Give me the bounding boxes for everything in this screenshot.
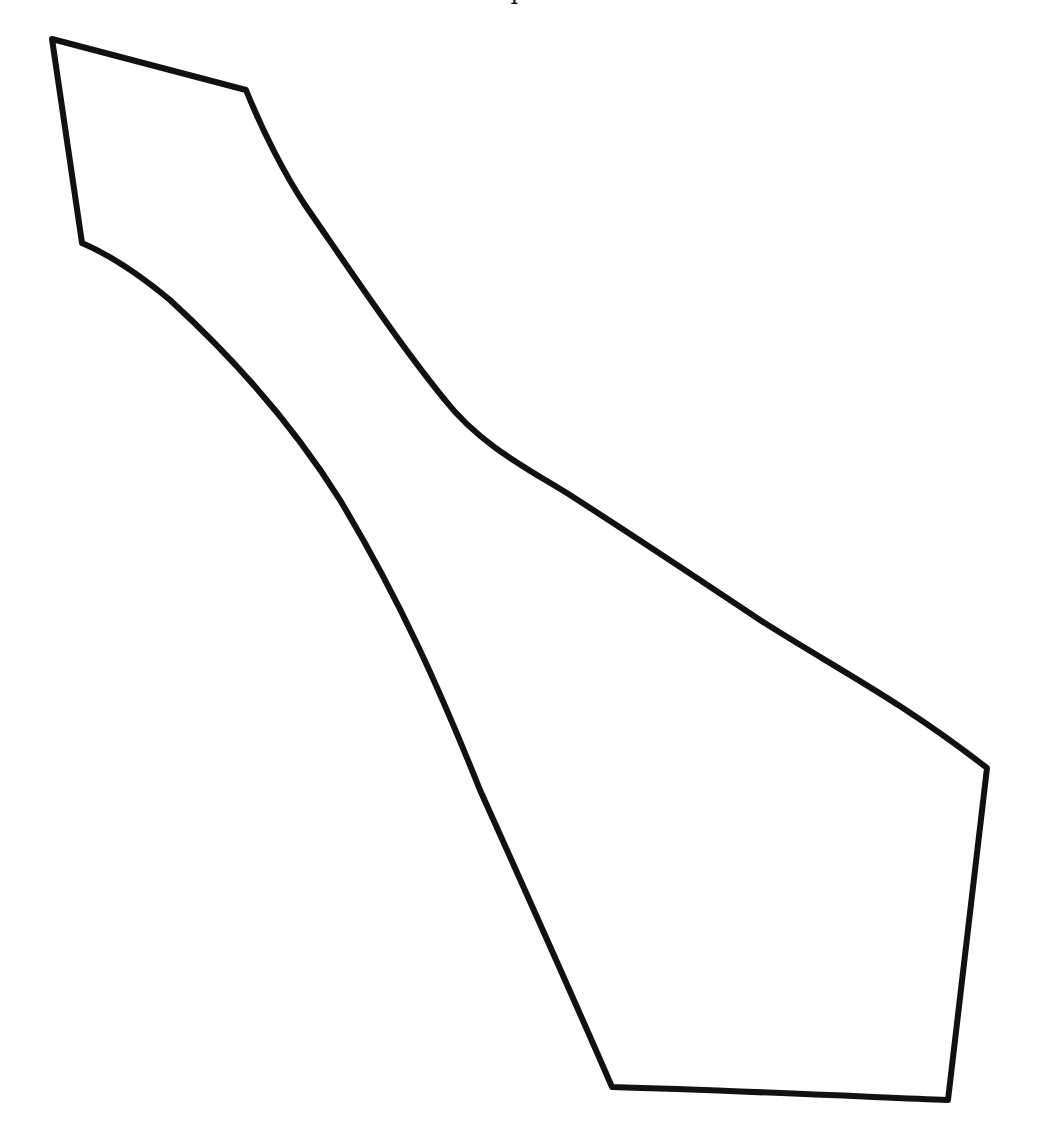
shape-outline (52, 39, 987, 1100)
polygon-drawing (0, 0, 1039, 1138)
